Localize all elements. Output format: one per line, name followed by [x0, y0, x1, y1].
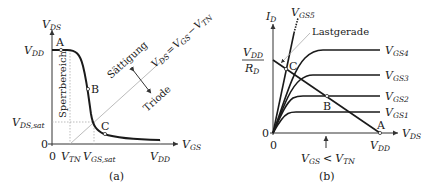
- point-c-label-b: C: [289, 60, 297, 73]
- point-c-label: C: [101, 120, 109, 133]
- curve-label-vgs5: VGS5: [291, 6, 315, 20]
- region-cutoff-label: Sperrbereich: [57, 50, 68, 118]
- load-line-pointer: [281, 33, 310, 63]
- x-tick-vgs-sat: VGS,sat: [83, 150, 117, 164]
- load-line-label: Lastgerade: [312, 26, 369, 37]
- point-a-label-b: A: [376, 119, 386, 132]
- x-tick-vdd-b: VDD: [370, 139, 390, 153]
- curve-label-vgs3: VGS3: [385, 69, 409, 83]
- curve-label-vgs2: VGS2: [385, 90, 409, 104]
- region-arrow: [133, 70, 150, 92]
- curve-label-vgs4: VGS4: [385, 44, 409, 58]
- panel-a: A B C VDS VGS VDD VDS,sat 0 0 VTN VGS,sa…: [12, 10, 215, 183]
- boundary-equation: VDS=VGS−VTN: [149, 10, 215, 71]
- x-axis-label: VGS: [182, 138, 201, 152]
- point-c-marker-b: [284, 67, 287, 70]
- y-axis-label: VDS: [42, 18, 61, 32]
- cutoff-note: VGS<VTN: [301, 152, 355, 166]
- y-tick-vds-sat: VDS,sat: [12, 116, 46, 130]
- region-saturation-label: Sättigung: [105, 39, 150, 81]
- point-b-label-b: B: [323, 100, 331, 113]
- diagram-canvas: A B C VDS VGS VDD VDS,sat 0 0 VTN VGS,sa…: [0, 0, 435, 191]
- curve-label-vgs1: VGS1: [385, 106, 409, 120]
- point-b-label: B: [91, 83, 99, 96]
- x-tick-vtn: VTN: [61, 150, 81, 164]
- point-a-label: A: [55, 36, 65, 49]
- region-triode-label: Triode: [141, 83, 173, 113]
- y-tick-zero: 0: [41, 138, 48, 151]
- x-tick-zero-b: 0: [270, 139, 277, 152]
- caption-b: (b): [319, 170, 335, 183]
- point-b-marker-b: [325, 94, 328, 97]
- x-axis-label-b: VDS: [402, 127, 421, 141]
- fraction-numerator: VDD: [243, 46, 263, 60]
- y-tick-vdd-over-rd: VDD RD: [242, 46, 264, 76]
- point-b-marker: [86, 87, 89, 90]
- caption-a: (a): [109, 170, 124, 183]
- y-tick-vdd: VDD: [24, 44, 44, 58]
- curve-vgs5-dotted: [294, 18, 298, 33]
- panel-b: A B C ID VDS VDD RD 0 0 VDD VGS5 VGS4 VG…: [242, 6, 421, 183]
- fraction-denominator: RD: [244, 62, 259, 76]
- x-tick-zero: 0: [49, 150, 56, 163]
- y-axis-label-b: ID: [265, 10, 276, 24]
- y-tick-zero-b: 0: [262, 127, 269, 140]
- x-tick-vdd: VDD: [150, 150, 170, 164]
